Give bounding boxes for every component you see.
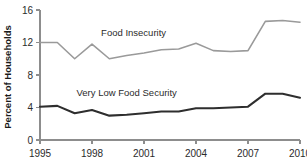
x-tick-label: 2001 [133,148,156,159]
x-tick-label: 2004 [185,148,208,159]
series-annotations: Food InsecurityVery Low Food Security [77,27,178,98]
chart-container: Percent of Households 0481216 1995199820… [0,0,307,164]
x-axis: 199519982001200420072010 [29,140,307,159]
series-line-0 [40,21,300,59]
x-tick-label: 2010 [289,148,307,159]
series-lines [40,21,300,116]
x-tick-label: 2007 [237,148,260,159]
x-tick-label: 1995 [29,148,52,159]
x-tick-label: 1998 [81,148,104,159]
y-axis-title: Percent of Households [2,25,13,128]
y-axis-title-label: Percent of Households [2,25,13,128]
y-tick-label: 8 [27,70,33,81]
y-tick-label: 12 [22,37,34,48]
y-tick-label: 16 [22,5,34,16]
series-label-1: Very Low Food Security [77,87,178,98]
line-chart: Percent of Households 0481216 1995199820… [0,0,307,164]
y-tick-label: 0 [27,135,33,146]
y-axis: 0481216 [22,5,40,146]
series-label-0: Food Insecurity [101,27,166,38]
y-tick-label: 4 [27,102,33,113]
